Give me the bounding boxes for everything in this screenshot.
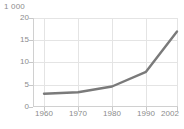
line-chart: 1 000 20 15 10 5 0 1960 1970 1980 1990 2… [0, 0, 184, 129]
data-line-series-0 [44, 31, 177, 93]
series-layer [0, 0, 184, 129]
